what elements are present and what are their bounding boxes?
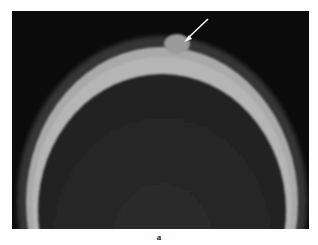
ct-scan-graphic xyxy=(12,11,309,229)
ct-scan-image xyxy=(12,11,309,229)
panel-label: a xyxy=(0,232,318,242)
bony-lesion xyxy=(164,34,190,54)
